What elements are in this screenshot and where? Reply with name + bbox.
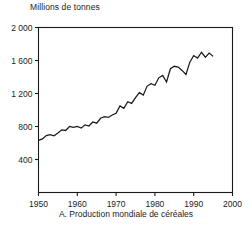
- x-axis-tick-labels: 195019601970198019902000: [29, 199, 242, 209]
- y-tick-label: 800: [18, 122, 32, 132]
- x-tick-label: 1980: [145, 199, 164, 209]
- y-tick-label: 1 200: [11, 89, 33, 99]
- x-tick-label: 1950: [29, 199, 48, 209]
- chart-plot-area: 4008001 2001 6002 000 195019601970198019…: [0, 0, 252, 230]
- y-tick-label: 2 000: [11, 23, 33, 33]
- y-axis-tick-labels: 4008001 2001 6002 000: [11, 23, 33, 165]
- x-tick-label: 1970: [107, 199, 126, 209]
- x-tick-label: 1960: [68, 199, 87, 209]
- cereal-production-figure: Millions de tonnes 4008001 2001 6002 000…: [0, 0, 252, 230]
- figure-caption: A. Production mondiale de céréales: [0, 209, 252, 219]
- plot-frame: [39, 28, 233, 193]
- y-tick-label: 1 600: [11, 56, 33, 66]
- y-tick-label: 400: [18, 155, 32, 165]
- data-line-cereal-production: [39, 52, 214, 140]
- x-tick-label: 2000: [223, 199, 242, 209]
- x-tick-label: 1990: [184, 199, 203, 209]
